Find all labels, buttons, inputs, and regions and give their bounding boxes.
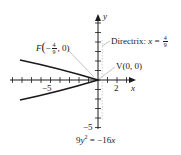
vertex-leader-line	[99, 67, 115, 79]
directrix-num: 4	[163, 35, 168, 42]
equation-caption: 9y2 = −16x	[76, 134, 115, 145]
focus-rest: , 0)	[58, 43, 70, 53]
eq-exponent: 2	[85, 134, 88, 140]
parabola-diagram: y x −5 2 −5 Directrix: x = 49 F(−49, 0) …	[0, 0, 181, 155]
focus-label: F(−49, 0)	[36, 41, 70, 55]
directrix-leader-line	[102, 41, 110, 46]
focus-num: 4	[52, 42, 57, 49]
eq-equals: =	[90, 135, 95, 145]
x-axis-label: x	[131, 84, 135, 93]
y-axis-label: y	[103, 12, 107, 21]
focus-sign: −	[46, 43, 51, 53]
focus-fraction: 49	[52, 42, 57, 55]
eq-var-x: x	[111, 135, 115, 145]
y-axis-arrow-icon	[95, 14, 101, 21]
directrix-den: 9	[164, 42, 167, 48]
directrix-prefix: Directrix:	[111, 36, 148, 46]
focus-den: 9	[53, 49, 56, 55]
directrix-eq: =	[152, 36, 162, 46]
y-tick-label-neg5: −5	[83, 123, 93, 132]
directrix-fraction: 49	[163, 35, 168, 48]
directrix-label: Directrix: x = 49	[111, 35, 169, 48]
x-tick-label-neg5: −5	[42, 84, 52, 93]
eq-rhs-coef: −16	[97, 135, 111, 145]
x-tick-label-2: 2	[114, 84, 119, 93]
vertex-label: V(0, 0)	[116, 62, 142, 71]
